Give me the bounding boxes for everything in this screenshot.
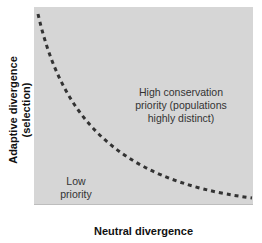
high-priority-line2: priority (populations [116,99,246,112]
y-axis-label-line2: (selection) [20,10,33,210]
low-priority-region: Low priority [50,175,102,201]
y-axis-label: Adaptive divergence (selection) [7,10,37,210]
high-priority-line1: High conservation [116,86,246,99]
high-priority-label: High conservation priority (populations … [116,86,246,125]
low-priority-line2: priority [50,188,102,201]
low-priority-line1: Low [50,175,102,188]
x-axis-label: Neutral divergence [34,225,253,237]
high-priority-line3: highly distinct) [116,112,246,125]
y-axis-label-line1: Adaptive divergence [7,10,20,210]
